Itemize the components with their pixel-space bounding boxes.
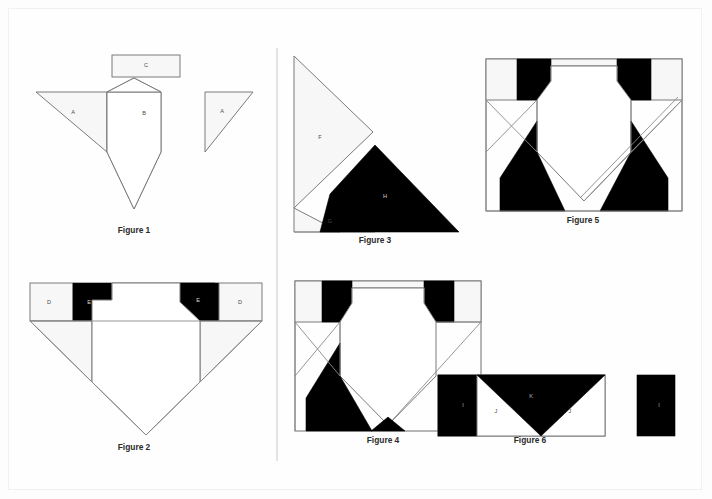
figure-2-caption: Figure 2 (118, 442, 151, 452)
figure-6-caption: Figure 6 (514, 435, 547, 445)
figure-5-caption: Figure 5 (567, 215, 600, 225)
figure-4-bottom-black-triangle (371, 417, 405, 431)
figure-1-label-c: C (144, 62, 148, 68)
figure-1-label-a-right: A (220, 108, 224, 114)
figure-6-piece-i-left (438, 375, 477, 436)
figure-3-caption: Figure 3 (359, 235, 392, 245)
figure-1-piece-a-right (205, 92, 253, 152)
figure-1-caption: Figure 1 (118, 225, 151, 235)
figure-4-caption: Figure 4 (367, 435, 400, 445)
figure-3-label-f: F (318, 134, 322, 140)
figure-5-group (486, 59, 682, 211)
figure-1-label-b: B (142, 110, 146, 116)
figure-6-group (438, 375, 675, 436)
figure-1-label-a-left: A (71, 109, 75, 115)
figure-3-label-g: G (328, 218, 332, 224)
figure-2-label-d-right: D (238, 299, 242, 305)
figure-2-label-e-left: E (87, 299, 91, 305)
figure-1-group (36, 55, 253, 209)
figure-1-body-top (107, 78, 161, 92)
figure-3-label-h: H (383, 193, 387, 199)
diagram-sheet: A B C A Figure 1 D E E D Figure 2 F G H … (0, 0, 712, 499)
figure-6-label-k: K (529, 393, 533, 399)
figure-1-body (107, 92, 161, 209)
figure-1-piece-a-left (36, 92, 107, 152)
figure-2-label-e-right: E (196, 297, 200, 303)
figure-6-piece-i-right (637, 375, 675, 436)
figure-2-label-d-left: D (47, 299, 51, 305)
figure-6-label-j-left: J (495, 408, 498, 414)
figure-2-group (30, 283, 262, 435)
figure-2-piece-d-left (30, 283, 73, 321)
assembly-diagram: A B C A Figure 1 D E E D Figure 2 F G H … (0, 0, 712, 499)
figure-6-label-j-right: J (569, 408, 572, 414)
figure-2-body (92, 283, 200, 435)
figure-3-group (294, 56, 459, 232)
